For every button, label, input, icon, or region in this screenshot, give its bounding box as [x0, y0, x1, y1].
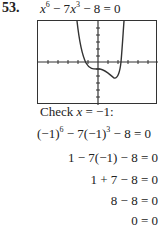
check-step-2: 1 − 7(−1) − 8 = 0 — [68, 150, 158, 166]
check-label: Check — [40, 104, 76, 119]
check-step-3: 1 + 7 − 8 = 0 — [91, 172, 159, 188]
check-step-5: 0 = 0 — [131, 213, 158, 229]
check-step-1: (−1)6 − 7(−1)3 − 8 = 0 — [37, 126, 151, 142]
equation-part: − 7 — [50, 1, 70, 16]
problem-number: 53. — [2, 0, 20, 16]
graph-plot — [38, 21, 158, 105]
problem-equation: x6 − 7x3 − 8 = 0 — [40, 1, 121, 17]
equation-part: − 8 = 0 — [80, 1, 121, 16]
step-part: (−1) — [37, 126, 60, 141]
step-part: − 8 = 0 — [110, 126, 151, 141]
step-part: − 7(−1) — [64, 126, 107, 141]
check-value: = −1: — [82, 104, 113, 119]
check-heading: Check x = −1: — [40, 104, 114, 120]
check-step-4: 8 − 8 = 0 — [111, 193, 158, 209]
calculator-graph — [37, 20, 157, 104]
